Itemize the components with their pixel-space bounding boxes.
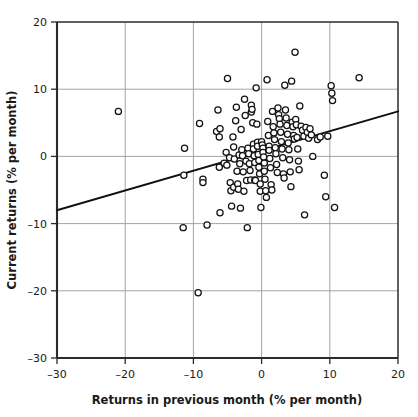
data-point	[286, 157, 292, 163]
y-axis-tick-label: –10	[28, 218, 48, 231]
data-point	[281, 175, 287, 181]
data-point	[279, 146, 285, 152]
data-point	[180, 225, 186, 231]
data-point	[317, 134, 323, 140]
data-point	[270, 124, 276, 130]
scatter-plot-figure: –30–20–1001020 –30–20–1001020 Returns in…	[0, 0, 418, 417]
data-point	[247, 167, 253, 173]
x-axis-tick-label: –20	[115, 368, 135, 381]
data-point	[234, 168, 240, 174]
data-point	[301, 212, 307, 218]
data-point	[196, 120, 202, 126]
data-point	[249, 106, 255, 112]
data-point	[261, 160, 267, 166]
data-point	[258, 204, 264, 210]
y-axis-tick-label: 20	[33, 16, 47, 29]
data-point	[265, 118, 271, 124]
data-point	[181, 145, 187, 151]
data-point	[272, 145, 278, 151]
data-point	[271, 130, 277, 136]
data-point	[267, 155, 273, 161]
data-point	[200, 180, 206, 186]
data-point	[240, 169, 246, 175]
data-point	[287, 169, 293, 175]
data-point	[241, 188, 247, 194]
data-point	[308, 132, 314, 138]
data-point	[274, 169, 280, 175]
data-point	[254, 121, 260, 127]
data-point	[244, 225, 250, 231]
data-point	[256, 164, 262, 170]
data-point	[241, 96, 247, 102]
data-point	[115, 108, 121, 114]
x-axis-tick-label: –30	[47, 368, 67, 381]
data-point	[323, 194, 329, 200]
chart-canvas: –30–20–1001020 –30–20–1001020 Returns in…	[0, 0, 418, 417]
data-point	[233, 104, 239, 110]
data-point	[328, 83, 334, 89]
data-point	[181, 172, 187, 178]
data-point	[271, 137, 277, 143]
data-point	[195, 290, 201, 296]
data-point	[263, 194, 269, 200]
data-point	[261, 168, 267, 174]
y-axis-title: Current returns (% per month)	[5, 91, 19, 290]
data-point	[282, 82, 288, 88]
data-point	[289, 78, 295, 84]
data-point	[325, 133, 331, 139]
data-point	[264, 77, 270, 83]
data-point	[233, 118, 239, 124]
y-axis-tick-label: –30	[28, 352, 48, 365]
data-point	[262, 176, 268, 182]
data-point	[269, 187, 275, 193]
data-point	[242, 112, 248, 118]
data-point	[329, 90, 335, 96]
data-point	[282, 107, 288, 113]
x-axis-tick-label: –10	[184, 368, 204, 381]
data-point	[310, 153, 316, 159]
data-point	[288, 184, 294, 190]
data-point	[266, 147, 272, 153]
data-point	[239, 147, 245, 153]
data-point	[307, 126, 313, 132]
data-point	[224, 162, 230, 168]
y-axis-tick-label: –20	[28, 285, 48, 298]
data-point	[238, 126, 244, 132]
y-axis-tick-label: 10	[33, 83, 47, 96]
data-point	[278, 129, 284, 135]
data-point	[283, 115, 289, 121]
x-axis-tick-labels: –30–20–1001020	[47, 368, 405, 381]
x-axis-tick-label: 0	[258, 368, 265, 381]
data-point	[331, 204, 337, 210]
data-point	[280, 155, 286, 161]
data-point	[230, 134, 236, 140]
data-point	[216, 134, 222, 140]
data-point	[356, 75, 362, 81]
data-point	[278, 139, 284, 145]
data-point	[274, 161, 280, 167]
data-point	[217, 126, 223, 132]
data-point	[224, 75, 230, 81]
data-point	[329, 98, 335, 104]
data-point	[237, 161, 243, 167]
data-point	[296, 167, 302, 173]
x-axis-tick-label: 10	[323, 368, 337, 381]
data-point	[286, 147, 292, 153]
data-point	[275, 105, 281, 111]
data-point	[261, 154, 267, 160]
data-point	[321, 172, 327, 178]
data-point	[273, 151, 279, 157]
data-point	[292, 49, 298, 55]
data-point	[215, 107, 221, 113]
data-point	[295, 158, 301, 164]
x-axis-title: Returns in previous month (% per month)	[92, 393, 363, 407]
data-point	[253, 85, 259, 91]
data-point	[263, 188, 269, 194]
data-point	[237, 205, 243, 211]
data-point	[204, 222, 210, 228]
y-axis-tick-label: 0	[40, 150, 47, 163]
data-point	[217, 210, 223, 216]
x-axis-tick-label: 20	[391, 368, 405, 381]
data-point	[294, 134, 300, 140]
y-axis-tick-labels: –30–20–1001020	[28, 16, 48, 365]
